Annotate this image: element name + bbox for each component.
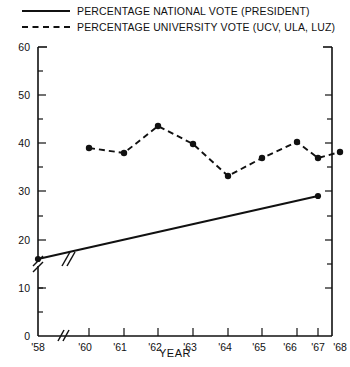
series-line-university-vote <box>89 126 340 176</box>
series-marker-university-67 <box>315 155 321 161</box>
series-marker-national-68 <box>315 193 321 199</box>
series-marker-university-62 <box>155 123 161 129</box>
series-marker-university-65 <box>259 155 265 161</box>
series-marker-university-66 <box>294 139 300 145</box>
series-marker-university-63 <box>190 141 196 147</box>
series-line-national-vote <box>38 196 318 259</box>
series-marker-national-58 <box>35 256 41 262</box>
series-marker-university-60 <box>86 145 92 151</box>
series-marker-university-64 <box>225 173 231 179</box>
series-marker-university-61 <box>121 150 127 156</box>
series-marker-university-68 <box>337 149 343 155</box>
plot-area <box>0 0 350 367</box>
chart-figure: PERCENTAGE NATIONAL VOTE (PRESIDENT) PER… <box>0 0 350 367</box>
